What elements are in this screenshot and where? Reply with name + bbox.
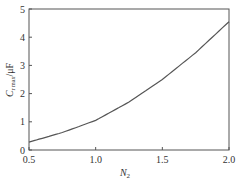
y-tick-label: 3 [20, 60, 25, 71]
x-axis-label: N2 [119, 167, 131, 180]
y-axis-label: Cr max/μF [4, 62, 16, 97]
x-tick-label: 1.5 [156, 154, 169, 165]
plot-frame [29, 9, 229, 150]
x-tick-label: 1.0 [89, 154, 102, 165]
data-curve [29, 22, 229, 142]
line-chart: 012345 0.51.01.52.0 N2 Cr max/μF [0, 0, 237, 187]
x-tick-label: 0.5 [23, 154, 36, 165]
y-axis-ticks: 012345 [20, 4, 32, 156]
x-tick-label: 2.0 [223, 154, 236, 165]
y-tick-label: 2 [20, 88, 25, 99]
y-tick-label: 1 [20, 116, 25, 127]
y-tick-label: 5 [20, 4, 25, 15]
y-tick-label: 4 [20, 32, 25, 43]
